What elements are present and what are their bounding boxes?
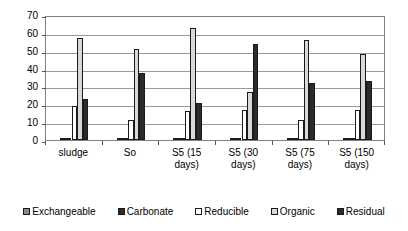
legend-swatch-icon — [337, 208, 344, 215]
legend-label: Residual — [346, 206, 385, 217]
legend-item[interactable]: Reducible — [195, 206, 248, 217]
bar-group — [46, 17, 103, 140]
bar-group — [159, 17, 216, 140]
y-axis: 010203040506070 — [0, 0, 38, 231]
bars-layer — [46, 17, 384, 140]
legend-item[interactable]: Residual — [337, 206, 385, 217]
x-axis-category-label-line: So — [102, 147, 159, 159]
bar — [242, 110, 248, 140]
bar — [185, 111, 191, 140]
y-axis-tick-label: 60 — [0, 29, 38, 39]
y-axis-tick-label: 10 — [0, 118, 38, 128]
y-axis-tick-label: 20 — [0, 100, 38, 110]
bar-group — [273, 17, 330, 140]
bar — [179, 138, 185, 140]
bar — [77, 38, 83, 140]
x-axis-tick-mark — [102, 141, 103, 145]
x-axis-ticks — [45, 141, 385, 146]
x-axis-category-label: S5 (30days) — [215, 147, 272, 171]
bar — [309, 83, 315, 140]
x-axis-tick-mark — [158, 141, 159, 145]
y-axis-tick-label: 30 — [0, 82, 38, 92]
legend-label: Reducible — [204, 206, 248, 217]
y-axis-tick-label: 0 — [0, 136, 38, 146]
bar — [66, 138, 72, 140]
bar — [236, 138, 242, 140]
x-axis-category-label-line: days) — [272, 159, 329, 171]
x-axis-category-label: S5 (75days) — [272, 147, 329, 171]
legend-swatch-icon — [195, 208, 202, 215]
legend-swatch-icon — [23, 208, 30, 215]
bar-group — [216, 17, 273, 140]
bar — [60, 138, 66, 140]
x-axis-category-label-line: days) — [328, 159, 385, 171]
bar — [366, 81, 372, 140]
bar — [253, 44, 259, 140]
legend-item[interactable]: Organic — [271, 206, 315, 217]
bar — [83, 99, 89, 140]
x-axis-category-label-line: S5 (15 — [158, 147, 215, 159]
x-axis-category-label-line: sludge — [45, 147, 102, 159]
bar — [139, 73, 145, 140]
x-axis-category-label-line: days) — [215, 159, 272, 171]
legend-label: Exchangeable — [32, 206, 95, 217]
x-axis-tick-mark — [384, 141, 385, 145]
x-axis-category-label: S5 (150days) — [328, 147, 385, 171]
legend-item[interactable]: Exchangeable — [23, 206, 95, 217]
x-axis-category-label: So — [102, 147, 159, 159]
bar — [287, 138, 293, 140]
x-axis-tick-mark — [328, 141, 329, 145]
x-axis-category-label: S5 (15days) — [158, 147, 215, 171]
y-axis-tick-label: 40 — [0, 65, 38, 75]
bar — [122, 138, 128, 140]
bar — [343, 138, 349, 140]
legend-swatch-icon — [118, 208, 125, 215]
bar — [360, 54, 366, 140]
x-axis-category-label-line: S5 (30 — [215, 147, 272, 159]
legend-label: Organic — [280, 206, 315, 217]
x-axis-category-label-line: S5 (75 — [272, 147, 329, 159]
bar-group — [103, 17, 160, 140]
x-axis-tick-mark — [272, 141, 273, 145]
bar — [292, 138, 298, 140]
bar — [173, 138, 179, 140]
plot-area — [45, 16, 385, 141]
x-axis-category-label-line: days) — [158, 159, 215, 171]
legend-item[interactable]: Carbonate — [118, 206, 174, 217]
bar — [230, 138, 236, 140]
y-axis-tick-label: 50 — [0, 47, 38, 57]
x-axis-category-label-line: S5 (150 — [328, 147, 385, 159]
bar — [247, 92, 253, 140]
bar — [349, 138, 355, 140]
bar — [190, 28, 196, 141]
bar-chart-figure: 010203040506070 sludgeSoS5 (15days)S5 (3… — [0, 0, 408, 231]
bar — [298, 120, 304, 140]
bar — [72, 106, 78, 140]
y-axis-tick-label: 70 — [0, 11, 38, 21]
x-axis-tick-mark — [45, 141, 46, 145]
bar — [128, 120, 134, 140]
x-axis-labels: sludgeSoS5 (15days)S5 (30days)S5 (75days… — [45, 147, 385, 181]
bar — [117, 138, 123, 140]
chart-legend: ExchangeableCarbonateReducibleOrganicRes… — [0, 203, 408, 219]
x-axis-category-label: sludge — [45, 147, 102, 159]
legend-label: Carbonate — [127, 206, 174, 217]
bar-group — [329, 17, 386, 140]
bar — [355, 110, 361, 140]
legend-swatch-icon — [271, 208, 278, 215]
bar — [134, 49, 140, 140]
bar — [304, 40, 310, 140]
x-axis-tick-mark — [215, 141, 216, 145]
bar — [196, 103, 202, 141]
